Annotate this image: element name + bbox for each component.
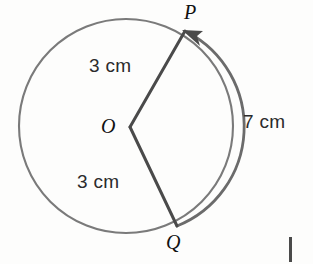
point-p-label: P [184, 2, 196, 22]
arc-length-label: 7 cm [243, 112, 285, 131]
geometry-figure: 3 cm 3 cm 7 cm O P Q [0, 0, 313, 264]
center-point-label: O [101, 116, 115, 136]
page-edge-mark [289, 237, 292, 262]
point-q-label: Q [166, 232, 180, 252]
radius-top-length-label: 3 cm [89, 56, 131, 75]
circle-diagram-svg [0, 0, 313, 264]
radius-oq [130, 127, 177, 226]
radius-bottom-length-label: 3 cm [77, 172, 119, 191]
radius-op [130, 31, 185, 127]
circle-outline [19, 19, 233, 233]
